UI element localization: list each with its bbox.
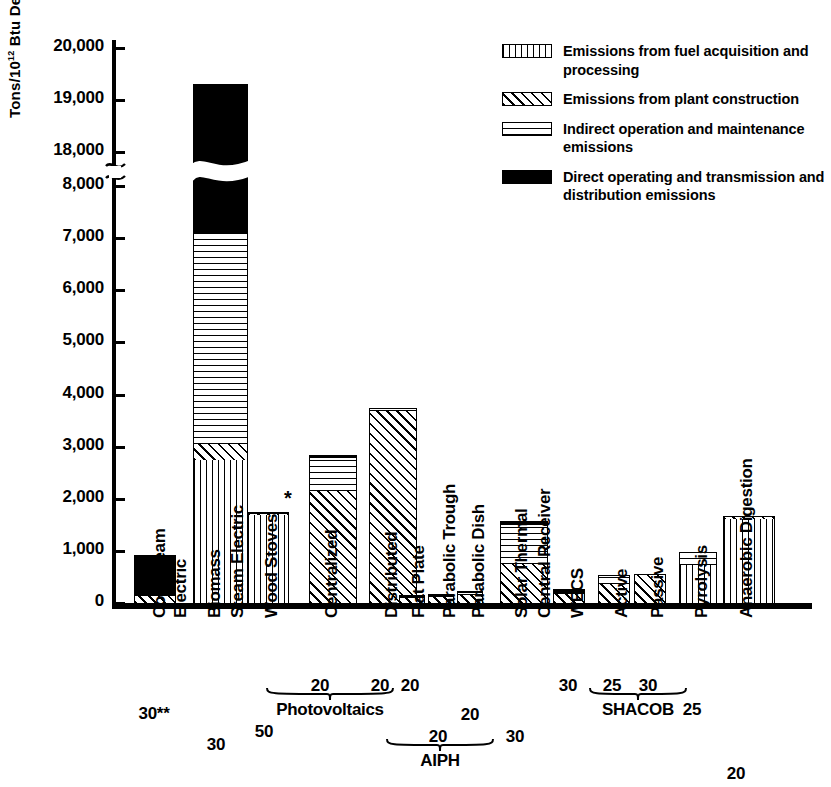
bar-segment xyxy=(193,233,248,444)
x-axis-category-label: Coal Steam xyxy=(150,528,170,618)
x-axis-category-label: Pyrolysis xyxy=(692,545,712,618)
x-axis-category-label: WECS xyxy=(568,568,588,618)
legend-item: Direct operating and transmission and di… xyxy=(502,168,827,205)
legend-item-label: Emissions from plant construction xyxy=(563,90,799,109)
legend-item: Indirect operation and maintenance emiss… xyxy=(502,120,827,157)
x-axis-category-label: Steam Electric xyxy=(228,505,248,618)
x-axis-year-annotation: 50 xyxy=(244,722,284,742)
x-axis-category-label: Wood Stoves xyxy=(262,514,282,618)
bar-segment xyxy=(193,444,248,460)
x-axis-category-label: Electric xyxy=(171,559,191,618)
x-axis-category-label: Parabolic Dish xyxy=(469,504,489,618)
x-axis-year-annotation: 20 xyxy=(716,764,756,784)
bar-segment xyxy=(369,408,417,411)
x-axis-year-annotation: 30 xyxy=(548,676,588,696)
x-axis-category-label: Centralized xyxy=(322,530,342,618)
bar-segment xyxy=(309,455,357,458)
legend-item-label: Direct operating and transmission and di… xyxy=(563,168,827,205)
x-axis-category-label: Active xyxy=(612,569,632,618)
chart-legend: Emissions from fuel acquisition and proc… xyxy=(502,42,827,216)
legend-swatch-horizontal-lines-icon xyxy=(502,122,552,136)
x-axis-category-label: Flat Plate xyxy=(409,545,429,618)
x-axis-category-label: Biomass xyxy=(205,549,225,618)
x-axis-year-annotation: 30 xyxy=(495,727,535,747)
x-axis-category-label: Passive xyxy=(648,557,668,618)
x-axis-category-label: Distributed xyxy=(382,532,402,618)
legend-item: Emissions from plant construction xyxy=(502,90,827,109)
group-label-photovoltaics: Photovoltaics xyxy=(265,700,395,720)
legend-swatch-solid-black-icon xyxy=(502,170,552,184)
x-axis-year-annotation: 20 xyxy=(450,705,490,725)
legend-item: Emissions from fuel acquisition and proc… xyxy=(502,42,827,79)
bar-break-squiggle-icon xyxy=(191,152,250,182)
group-label-aiph: AIPH xyxy=(385,751,495,771)
x-axis-year-annotation: 30 xyxy=(196,735,236,755)
x-axis-category-label: Parabolic Trough xyxy=(440,484,460,618)
bar-segment xyxy=(309,458,357,491)
legend-item-label: Emissions from fuel acquisition and proc… xyxy=(563,42,827,79)
x-axis-year-annotation: 20 xyxy=(390,676,430,696)
x-axis-category-label: Central Receiver xyxy=(535,489,555,618)
legend-swatch-vertical-lines-icon xyxy=(502,44,552,58)
footnote-asterisk-marker: * xyxy=(284,488,292,508)
x-axis-category-label: Solar Thermal xyxy=(512,509,532,618)
legend-swatch-diagonal-lines-icon xyxy=(502,92,552,106)
legend-item-label: Indirect operation and maintenance emiss… xyxy=(563,120,827,157)
x-axis-category-label: Anaerobic Digestion xyxy=(737,458,757,618)
x-axis-year-annotation: 30** xyxy=(134,704,174,724)
group-label-shacob: SHACOB xyxy=(588,700,688,720)
